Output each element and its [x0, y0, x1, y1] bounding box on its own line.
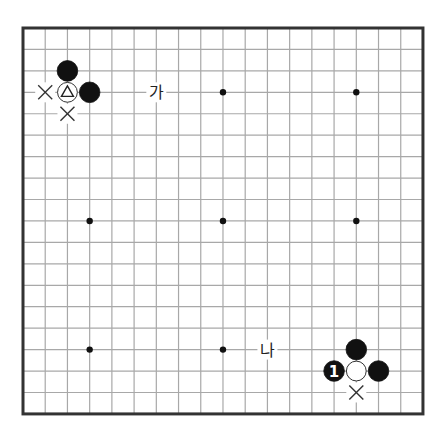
star-point	[220, 346, 226, 352]
black-stone: 1	[324, 361, 345, 382]
cross-mark-icon	[346, 382, 366, 402]
go-board-svg: 가나 1	[0, 0, 445, 437]
star-point	[353, 218, 359, 224]
white-stone	[58, 82, 78, 102]
star-point	[86, 346, 92, 352]
point-label: 나	[257, 340, 277, 360]
cross-mark-icon	[35, 82, 55, 102]
star-point	[353, 89, 359, 95]
point-label-text: 나	[260, 341, 275, 360]
black-stone	[79, 82, 100, 103]
black-stone	[368, 361, 389, 382]
black-stone	[57, 61, 78, 82]
go-board: 가나 1	[0, 0, 445, 437]
star-point	[220, 218, 226, 224]
star-point	[86, 218, 92, 224]
star-point	[220, 89, 226, 95]
cross-mark-icon	[57, 104, 77, 124]
move-number: 1	[329, 363, 339, 381]
point-label: 가	[146, 82, 166, 102]
white-stone	[346, 361, 366, 381]
point-label-text: 가	[149, 83, 164, 102]
black-stone	[346, 339, 367, 360]
